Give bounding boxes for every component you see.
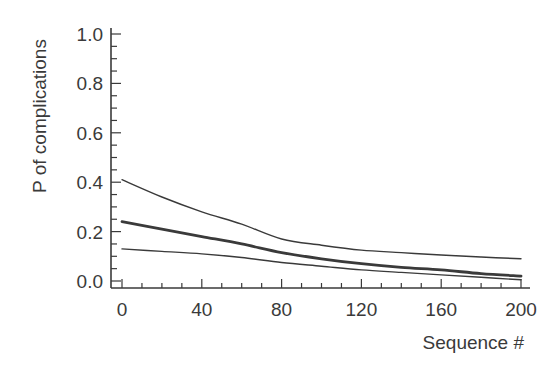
x-axis-title: Sequence # — [423, 332, 525, 353]
y-axis-title: P of complications — [29, 39, 50, 193]
x-axis: 04080120160200 — [111, 279, 537, 320]
x-tick-label: 160 — [425, 299, 457, 320]
x-tick-label: 200 — [505, 299, 537, 320]
y-tick-label: 1.0 — [77, 24, 103, 45]
y-tick-label: 0.2 — [77, 222, 103, 243]
y-axis: 0.00.20.40.60.81.0 — [77, 24, 121, 292]
y-tick-label: 0.0 — [77, 271, 103, 292]
y-tick-label: 0.8 — [77, 73, 103, 94]
series-line — [122, 249, 521, 280]
series-line — [122, 180, 521, 259]
x-tick-label: 0 — [117, 299, 128, 320]
series-lines — [122, 180, 521, 280]
x-tick-label: 40 — [191, 299, 212, 320]
y-tick-label: 0.6 — [77, 123, 103, 144]
series-line — [122, 222, 521, 276]
y-tick-label: 0.4 — [77, 172, 104, 193]
line-chart: P of complications 0.00.20.40.60.81.0 04… — [0, 0, 559, 368]
x-tick-label: 80 — [271, 299, 292, 320]
x-tick-label: 120 — [346, 299, 378, 320]
